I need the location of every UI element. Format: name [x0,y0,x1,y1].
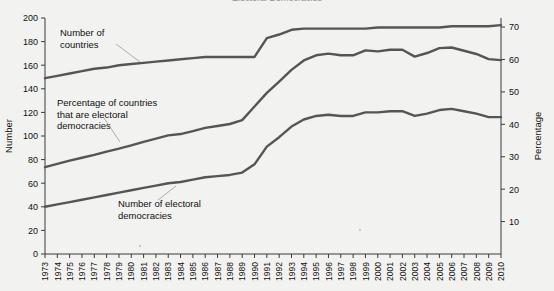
x-axis-tick-label: 2010 [496,262,506,281]
y2-axis-tick-label: 10 [509,217,519,227]
y-axis-tick-label: 180 [23,37,38,47]
x-axis-tick-label: 1996 [324,262,334,281]
x-axis-tick-label: 2009 [484,262,494,281]
x-axis-tick-label: 1995 [311,262,321,281]
annotation-leader [116,44,140,62]
x-axis-tick-label: 1987 [213,262,223,281]
series-line [45,109,501,207]
y-axis-tick-label: 200 [23,13,38,23]
x-axis-tick-label: 1975 [65,262,75,281]
x-axis-tick-label: 2004 [422,262,432,281]
x-axis-tick-label: 2008 [472,262,482,281]
y2-axis-tick-label: 70 [509,22,519,32]
x-axis-tick-label: 1997 [336,262,346,281]
x-axis-tick-label: 2005 [435,262,445,281]
x-axis-tick-label: 2001 [385,262,395,281]
y-axis-tick-label: 60 [28,179,38,189]
annotation-text: that are electoral [57,109,128,120]
y-axis-tick-label: 160 [23,61,38,71]
x-axis-tick-label: 1994 [299,262,309,281]
x-axis-tick-label: 2003 [410,262,420,281]
y-axis-tick-label: 40 [28,202,38,212]
annotation-text: democracies [118,210,172,221]
x-axis-tick-label: 2007 [459,262,469,281]
y-axis-tick-label: 140 [23,84,38,94]
y-axis-title: Number [3,119,14,153]
y2-axis-tick-label: 50 [509,87,519,97]
x-axis-tick-label: 1990 [250,262,260,281]
y-axis-tick-label: 100 [23,131,38,141]
y2-axis-tick-label: 60 [509,55,519,65]
x-axis-tick-label: 1989 [237,262,247,281]
x-axis-tick-label: 1991 [262,262,272,281]
x-axis-tick-label: 1998 [348,262,358,281]
x-axis-tick-label: 1982 [151,262,161,281]
axes-group: 0204060801001201401601802001020304050607… [3,13,543,281]
x-axis-tick-label: 1986 [200,262,210,281]
x-axis-tick-label: 1993 [287,262,297,281]
y2-axis-title: Percentage [532,112,543,161]
chart-annotation: Number ofcountries [60,27,140,62]
x-axis-tick-label: 1988 [225,262,235,281]
x-axis-tick-label: 1983 [163,262,173,281]
x-axis-tick-label: 1973 [40,262,50,281]
scan-speck-1 [359,229,361,231]
scan-speck-2 [139,245,141,247]
x-axis-tick-label: 1974 [53,262,63,281]
annotation-text: Number of electoral [118,198,201,209]
x-axis-tick-label: 1979 [114,262,124,281]
y2-axis-tick-label: 20 [509,185,519,195]
plot-frame [45,18,501,254]
chart-svg: 0204060801001201401601802001020304050607… [0,0,554,291]
x-axis-tick-label: 1976 [77,262,87,281]
annotation-text: Percentage of countries [57,97,158,108]
y-axis-tick-label: 20 [28,226,38,236]
annotation-text: Number of [60,27,105,38]
y2-axis-tick-label: 40 [509,120,519,130]
chart-figure: 0204060801001201401601802001020304050607… [0,0,554,291]
x-axis-tick-label: 2000 [373,262,383,281]
x-axis-tick-label: 1992 [274,262,284,281]
x-axis-tick-label: 1977 [89,262,99,281]
annotation-text: democracies [57,120,111,131]
y-axis-tick-label: 0 [33,249,38,259]
chart-annotation: Percentage of countriesthat are electora… [57,97,158,142]
x-axis-tick-label: 1985 [188,262,198,281]
x-axis-tick-label: 2006 [447,262,457,281]
x-axis-tick-label: 1978 [102,262,112,281]
x-axis-tick-label: 1981 [139,262,149,281]
x-axis-tick-label: 2002 [398,262,408,281]
annotation-text: countries [60,39,99,50]
y-axis-tick-label: 80 [28,155,38,165]
y2-axis-tick-label: 30 [509,152,519,162]
y-axis-tick-label: 120 [23,108,38,118]
x-axis-tick-label: 1999 [361,262,371,281]
x-axis-tick-label: 1984 [176,262,186,281]
x-axis-tick-label: 1980 [126,262,136,281]
